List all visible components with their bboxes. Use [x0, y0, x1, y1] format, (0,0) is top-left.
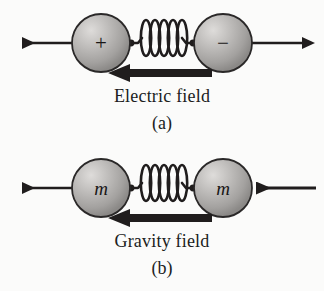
panel-a-field-arrow [108, 64, 212, 82]
panel-b-field-arrow [108, 209, 212, 227]
panel-b-spring [128, 165, 197, 201]
panel-b-left-sphere-label: m [94, 178, 108, 199]
panel-a-right-sphere: − [194, 14, 252, 72]
physics-figure: + − Electric field (a) [0, 0, 324, 291]
panel-a-left-sphere-label: + [95, 31, 107, 55]
panel-a-left-sphere: + [72, 14, 130, 72]
panel-b-field-label: Gravity field [0, 231, 324, 252]
panel-b-left-sphere: m [72, 159, 130, 217]
panel-a-spring [128, 20, 197, 56]
panel-a-caption: (a) [0, 113, 324, 134]
panel-b-caption: (b) [0, 258, 324, 279]
panel-b: m m Gravity field (b) [0, 145, 324, 291]
panel-a-field-label: Electric field [0, 86, 324, 107]
panel-b-scene: m m [0, 145, 324, 245]
panel-a: + − Electric field (a) [0, 0, 324, 146]
panel-b-right-sphere-label: m [216, 178, 230, 199]
panel-a-right-sphere-label: − [217, 31, 229, 55]
panel-b-right-sphere: m [194, 159, 252, 217]
panel-a-scene: + − [0, 0, 324, 100]
